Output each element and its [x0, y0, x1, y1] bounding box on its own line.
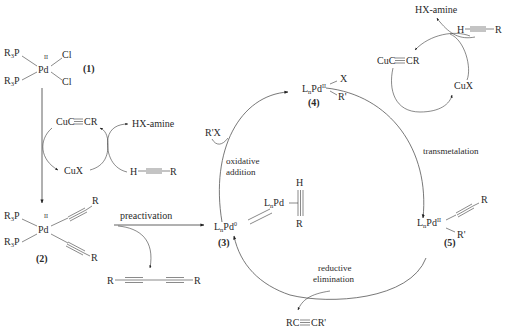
- hx-amine-label: HX-amine: [415, 4, 458, 15]
- svg-text:R3P: R3P: [4, 236, 20, 248]
- svg-text:R': R': [338, 91, 347, 102]
- hx-amine-label: HX-amine: [132, 118, 175, 129]
- svg-text:R: R: [481, 194, 488, 205]
- sonogashira-catalytic-cycle-diagram: R3P R3P II Pd Cl Cl (1) CuC CR HX-amine …: [0, 0, 506, 335]
- svg-text:CuC: CuC: [377, 55, 396, 66]
- metal-center: Pd: [38, 64, 49, 75]
- compound-number: (2): [36, 253, 48, 265]
- svg-text:R3P: R3P: [4, 75, 20, 87]
- svg-text:CR': CR': [311, 317, 326, 328]
- transmetalation-label: transmetalation: [423, 146, 479, 156]
- triple-bond: [74, 119, 83, 124]
- svg-text:R: R: [194, 275, 201, 286]
- oxidation-state: II: [44, 54, 48, 60]
- oxidative-addition-label: oxidative: [226, 156, 260, 166]
- svg-text:Pd: Pd: [38, 224, 49, 235]
- svg-text:RC: RC: [286, 317, 300, 328]
- svg-text:Cl: Cl: [62, 76, 72, 87]
- svg-text:R3P: R3P: [4, 47, 20, 59]
- triple-bond: [456, 204, 474, 217]
- svg-text:LnPd: LnPd: [264, 197, 284, 209]
- cux-label: CuX: [454, 80, 474, 91]
- svg-text:LnPdII: LnPdII: [302, 83, 326, 95]
- triple-bond: [66, 242, 85, 255]
- svg-text:CuC: CuC: [56, 116, 75, 127]
- svg-text:Cl: Cl: [62, 49, 72, 60]
- left-copper-cycle: CuC CR HX-amine CuX H R: [43, 116, 177, 177]
- svg-text:R: R: [107, 275, 114, 286]
- compound-3-pd0: LnPd0 (3): [214, 221, 237, 249]
- compound-number: (4): [308, 97, 320, 109]
- triple-bond: [300, 320, 310, 325]
- compound-2-bis-alkynyl-pd: R3P R3P II Pd R R (2): [4, 195, 99, 265]
- svg-text:elimination: elimination: [313, 274, 354, 284]
- diyne-byproduct: R R: [107, 275, 201, 286]
- triple-bond: [395, 58, 405, 63]
- triple-bond: [146, 169, 162, 173]
- svg-text:H: H: [130, 166, 137, 177]
- svg-text:X: X: [340, 73, 348, 84]
- pi-alkyne-complex: LnPd H R: [264, 177, 303, 229]
- svg-text:CR: CR: [406, 55, 420, 66]
- reductive-elimination-label: reductive: [318, 263, 351, 273]
- svg-text:II: II: [44, 213, 48, 219]
- cux-label: CuX: [64, 165, 84, 176]
- compound-number: (1): [83, 63, 95, 75]
- compound-number: (5): [444, 237, 456, 249]
- svg-text:R: R: [91, 252, 98, 263]
- svg-text:R: R: [92, 195, 99, 206]
- compound-1-pdcl2-phosphine: R3P R3P II Pd Cl Cl (1): [4, 47, 95, 87]
- compound-4-oxidative-addition-product: LnPdII X R' (4): [302, 73, 348, 109]
- svg-text:R: R: [495, 24, 502, 35]
- right-copper-cycle: HX-amine H R CuC CR CuX: [377, 4, 502, 112]
- svg-text:R': R': [457, 229, 466, 240]
- aryl-halide-label: R'X: [205, 127, 221, 138]
- svg-text:addition: addition: [226, 167, 256, 177]
- palladium-catalytic-cycle: R'X RC CR': [205, 88, 426, 328]
- svg-text:R3P: R3P: [4, 210, 20, 222]
- compound-number: (3): [218, 237, 230, 249]
- svg-text:R: R: [170, 166, 177, 177]
- svg-text:LnPdII: LnPdII: [417, 217, 441, 229]
- svg-text:R: R: [296, 218, 303, 229]
- triple-bond: [68, 208, 87, 221]
- transmetalation-arrow: [326, 88, 424, 218]
- preactivation-label: preactivation: [120, 210, 172, 221]
- svg-text:LnPd0: LnPd0: [214, 221, 237, 233]
- svg-text:H: H: [296, 177, 303, 188]
- equilibrium-arrow: [248, 209, 270, 220]
- svg-text:CR: CR: [84, 116, 98, 127]
- compound-5-transmetalation-product: LnPdII R R' (5): [417, 194, 488, 249]
